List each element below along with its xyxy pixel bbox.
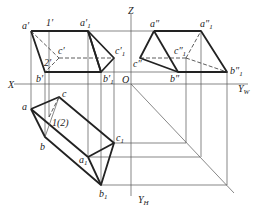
label-x: X [7,79,15,90]
label-yw: YW [238,83,251,96]
45-degree-line [131,84,234,193]
svg-text:a: a [22,101,27,112]
svg-text:a″: a″ [150,18,160,29]
svg-text:c: c [62,88,67,99]
svg-text:1′: 1′ [46,17,54,28]
svg-text:b′: b′ [36,73,44,84]
svg-text:c′1: c′1 [115,45,125,58]
label-z: Z [128,5,134,16]
label-yh: YH [138,194,150,207]
projection-diagram: Z X O YW YH a′ 1′ a′1 c′ 2′ c′1 b′ b′1 a… [0,0,262,214]
svg-text:a″1: a″1 [200,18,213,31]
label-o: O [122,74,129,85]
svg-text:c′: c′ [58,45,65,56]
svg-text:b″: b″ [170,73,180,84]
svg-text:a′: a′ [22,20,30,31]
svg-text:c″: c″ [133,58,142,69]
svg-text:c″1: c″1 [174,45,186,58]
svg-text:b: b [40,141,45,152]
svg-text:b1: b1 [99,188,108,201]
svg-text:1(2): 1(2) [52,117,69,129]
labels: Z X O YW YH a′ 1′ a′1 c′ 2′ c′1 b′ b′1 a… [7,5,251,207]
svg-text:a′1: a′1 [80,17,91,30]
svg-text:2′: 2′ [44,57,52,68]
svg-text:b″1: b″1 [230,65,243,78]
